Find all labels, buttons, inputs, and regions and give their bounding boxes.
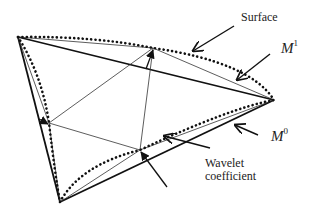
- m1-label-base: M: [281, 40, 294, 56]
- m1-edge: [60, 150, 140, 202]
- wavelet-arrow-top: [146, 50, 153, 69]
- m0-pointer-arrow: [235, 125, 258, 135]
- m1-edge: [140, 48, 153, 150]
- wavelet-coefficient-label: Wavelet coefficient: [205, 157, 256, 183]
- label-pointers: [164, 26, 270, 148]
- m0-label: M0: [271, 126, 288, 145]
- m1-edge: [49, 123, 140, 150]
- surface-label: Surface: [241, 10, 278, 25]
- m1-edge: [18, 37, 49, 123]
- m1-label-superscript: 1: [294, 38, 299, 48]
- m1-edge: [140, 100, 274, 150]
- m0-label-base: M: [271, 128, 284, 144]
- wavelet-pointer-arrow: [164, 136, 210, 148]
- m0-label-superscript: 0: [284, 126, 289, 136]
- wavelet-arrows: [39, 50, 167, 187]
- m1-pointer-arrow: [237, 54, 270, 80]
- wavelet-label-line2: coefficient: [205, 170, 256, 183]
- m1-label: M1: [281, 38, 298, 57]
- m1-edge: [49, 48, 153, 123]
- mesh-diagram: [0, 0, 317, 217]
- surface-pointer-arrow: [193, 26, 234, 51]
